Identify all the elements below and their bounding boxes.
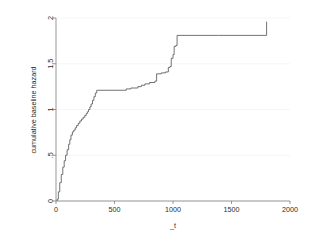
x-tick-label: 1000: [165, 205, 181, 214]
chart-container: 0500100015002000 0.511.52 _t cumulative …: [0, 0, 328, 243]
grid-lines: [56, 18, 290, 201]
y-tick-label: 1.5: [46, 59, 55, 69]
step-line-cumulative-baseline-hazard: [57, 22, 266, 201]
y-tick-label: .5: [46, 152, 55, 158]
x-axis-title: _t: [169, 221, 176, 230]
x-axis-ticks: 0500100015002000: [54, 201, 298, 214]
y-tick-label: 2: [46, 16, 55, 20]
x-tick-label: 2000: [282, 205, 298, 214]
y-axis-title: cumulative baseline hazard: [29, 66, 38, 153]
x-tick-label: 1500: [224, 205, 240, 214]
x-tick-label: 0: [54, 205, 58, 214]
y-axis-ticks: 0.511.52: [46, 16, 56, 203]
y-tick-label: 0: [46, 199, 55, 203]
x-tick-label: 500: [109, 205, 121, 214]
cumulative-baseline-hazard-chart: 0500100015002000 0.511.52 _t cumulative …: [0, 0, 328, 243]
y-tick-label: 1: [46, 108, 55, 112]
